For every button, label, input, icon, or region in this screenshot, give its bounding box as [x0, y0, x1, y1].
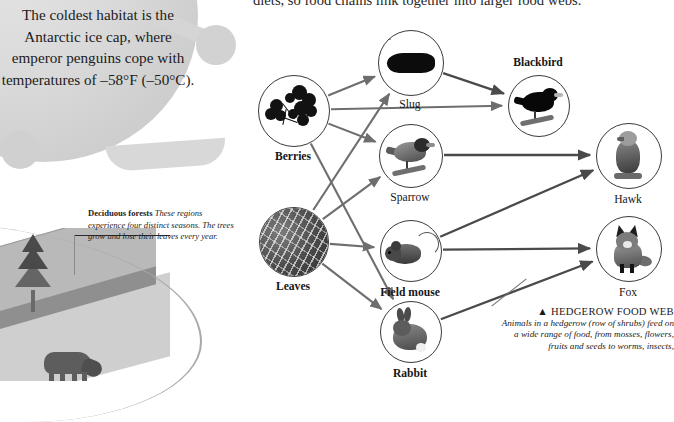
- food-web-node-fieldmouse[interactable]: [380, 220, 442, 282]
- hawk-art: [609, 130, 649, 182]
- caption-title-row: ▲ HEDGEROW FOOD WEB: [498, 306, 674, 318]
- node-art-wrap: [259, 76, 329, 146]
- node-art-wrap: [260, 208, 328, 276]
- food-web-node-leaves[interactable]: [259, 207, 329, 277]
- food-web-label-leaves: Leaves: [276, 280, 310, 293]
- food-web-node-blackbird[interactable]: [508, 75, 570, 137]
- food-web-label-blackbird: Blackbird: [513, 56, 563, 69]
- food-web-label-sparrow: Sparrow: [390, 191, 429, 204]
- food-web-arrow-leaves-to-fieldmouse: [330, 244, 374, 247]
- food-web-arrow-fieldmouse-to-fox: [443, 248, 590, 249]
- node-art-wrap: [381, 302, 441, 362]
- caption-body: Animals in a hedgerow (row of shrubs) fe…: [498, 318, 674, 353]
- node-art-wrap: [597, 217, 661, 281]
- food-web-label-hawk: Hawk: [614, 193, 642, 206]
- food-web-node-rabbit[interactable]: [380, 301, 442, 363]
- node-art-wrap: [379, 31, 443, 95]
- food-web-arrow-slug-to-blackbird: [443, 73, 504, 93]
- food-web-label-fox: Fox: [619, 286, 637, 299]
- leaves-art: [260, 208, 328, 276]
- field-mouse-art: [385, 234, 437, 268]
- food-web-node-fox[interactable]: [596, 216, 662, 282]
- node-art-wrap: [381, 221, 441, 281]
- food-web-node-berries[interactable]: [258, 75, 330, 147]
- food-web-arrow-leaves-to-rabbit: [322, 264, 381, 309]
- food-web-caption: ▲ HEDGEROW FOOD WEB Animals in a hedgero…: [498, 306, 674, 352]
- food-web-node-sparrow[interactable]: [379, 124, 443, 188]
- caption-marker-icon: ▲: [537, 306, 548, 317]
- food-web-node-hawk[interactable]: [596, 123, 662, 189]
- fox-art: [606, 226, 652, 272]
- node-art-wrap: [380, 125, 442, 187]
- caption-title: HEDGEROW FOOD WEB: [551, 306, 674, 317]
- blackbird-art: [516, 86, 562, 126]
- food-web-label-slug: Slug: [399, 98, 420, 111]
- food-web-arrow-berries-to-slug: [328, 76, 375, 95]
- slug-art: [387, 53, 435, 73]
- node-art-wrap: [597, 124, 661, 188]
- food-web-arrow-fieldmouse-to-hawk: [440, 170, 593, 237]
- food-web-label-rabbit: Rabbit: [393, 367, 427, 380]
- food-web-label-fieldmouse: Field mouse: [380, 286, 440, 299]
- node-art-wrap: [509, 76, 569, 136]
- rabbit-art: [389, 310, 433, 354]
- sparrow-art: [388, 136, 434, 176]
- food-web-node-slug[interactable]: [378, 30, 444, 96]
- food-web-label-berries: Berries: [275, 150, 311, 163]
- berries-art: [264, 83, 324, 139]
